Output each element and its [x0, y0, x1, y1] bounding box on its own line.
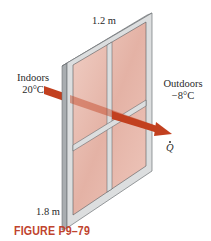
- outdoors-temperature: −8°C: [160, 90, 206, 102]
- window-frame-side: [62, 63, 67, 230]
- window-height-label: 1.8 m: [36, 206, 60, 218]
- heat-flow-rate-label: Q: [166, 142, 174, 154]
- outdoors-title: Outdoors: [160, 78, 206, 90]
- window-heat-loss-figure: 1.2 m 1.8 m Indoors 20°C Outdoors −8°C Q…: [0, 0, 211, 241]
- window-width-label: 1.2 m: [92, 15, 116, 27]
- heat-flow-symbol: Q: [166, 142, 174, 153]
- indoors-title: Indoors: [12, 72, 54, 84]
- indoors-label: Indoors 20°C: [12, 72, 54, 96]
- indoors-temperature: 20°C: [12, 84, 54, 96]
- figure-caption: FIGURE P9–79: [14, 223, 90, 238]
- window-illustration: [0, 0, 211, 241]
- outdoors-label: Outdoors −8°C: [160, 78, 206, 102]
